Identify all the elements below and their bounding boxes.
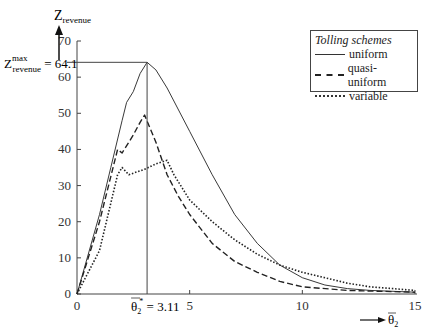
zmax-label: Zmaxrevenue = 64.1 <box>4 53 78 74</box>
solid-line-swatch-icon <box>315 54 345 55</box>
legend-item-variable: variable <box>315 89 413 103</box>
legend-label: quasi-uniform <box>348 61 413 89</box>
series-quasi-uniform <box>77 115 415 294</box>
legend-item-quasi-uniform: quasi-uniform <box>315 61 413 89</box>
y-tick-label: 70 <box>58 33 71 48</box>
y-tick-label: 0 <box>65 286 72 301</box>
legend-item-uniform: uniform <box>315 47 413 61</box>
dotted-line-swatch-icon <box>315 95 345 97</box>
y-tick-label: 20 <box>58 214 71 229</box>
y-tick-label: 10 <box>58 250 71 265</box>
y-tick-label: 30 <box>58 178 71 193</box>
legend-label: variable <box>349 89 388 103</box>
arrow-up-icon <box>55 25 63 35</box>
x-tick-label: 5 <box>186 298 193 313</box>
legend: Tolling schemes uniform quasi-uniform va… <box>310 30 418 92</box>
dashed-line-swatch-icon <box>315 74 344 76</box>
x-tick-label: 15 <box>409 298 422 313</box>
x-tick-label: 10 <box>296 298 309 313</box>
y-tick-label: 50 <box>58 105 71 120</box>
x-tick-label: 0 <box>74 298 81 313</box>
y-axis-label: Zrevenue <box>54 8 91 25</box>
legend-title: Tolling schemes <box>315 33 413 47</box>
x-axis-label: θ2 <box>388 312 398 328</box>
arrow-right-icon <box>378 317 386 323</box>
legend-label: uniform <box>349 47 388 61</box>
y-tick-label: 40 <box>58 141 71 156</box>
theta-star-label: θ2* = 3.11 <box>131 297 179 316</box>
y-tick-label: 60 <box>58 69 71 84</box>
series-variable <box>77 160 415 294</box>
